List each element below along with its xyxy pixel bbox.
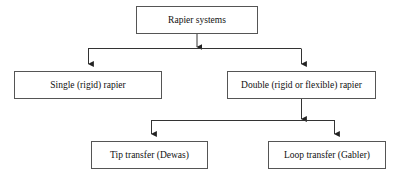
node-single-rigid-rapier-label: Single (rigid) rapier xyxy=(50,80,125,90)
node-double-rigid-or-flexible-rapier[interactable]: Double (rigid or flexible) rapier xyxy=(227,71,376,99)
node-loop-transfer-gabler[interactable]: Loop transfer (Gabler) xyxy=(268,141,386,169)
node-rapier-systems-label: Rapier systems xyxy=(168,15,226,25)
node-double-rigid-or-flexible-rapier-label: Double (rigid or flexible) rapier xyxy=(241,80,362,90)
node-loop-transfer-gabler-label: Loop transfer (Gabler) xyxy=(284,150,370,160)
node-tip-transfer-dewas[interactable]: Tip transfer (Dewas) xyxy=(91,141,208,169)
node-tip-transfer-dewas-label: Tip transfer (Dewas) xyxy=(110,150,189,160)
diagram-canvas: Rapier systems Single (rigid) rapier Dou… xyxy=(0,0,402,176)
node-single-rigid-rapier[interactable]: Single (rigid) rapier xyxy=(14,71,162,99)
node-rapier-systems[interactable]: Rapier systems xyxy=(136,6,258,34)
